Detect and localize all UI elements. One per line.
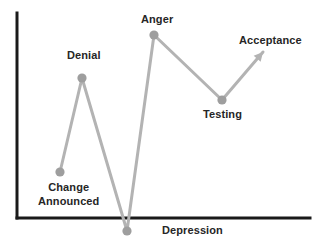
- data-point-marker: [149, 30, 158, 39]
- point-label-acceptance: Acceptance: [239, 34, 302, 47]
- data-point-marker: [217, 95, 226, 104]
- point-label-denial: Denial: [67, 49, 101, 62]
- label-line: Change: [38, 180, 99, 194]
- data-point-marker: [77, 73, 86, 82]
- label-line: Testing: [203, 108, 242, 121]
- label-line: Acceptance: [239, 34, 302, 47]
- change-curve-chart: ChangeAnnouncedDenialDepressionAngerTest…: [0, 0, 322, 251]
- label-line: Depression: [162, 224, 223, 237]
- label-line: Anger: [141, 13, 173, 26]
- label-line: Denial: [67, 49, 101, 62]
- point-label-depression: Depression: [162, 224, 223, 237]
- data-point-marker: [55, 167, 64, 176]
- point-label-testing: Testing: [203, 108, 242, 121]
- data-point-marker: [122, 226, 131, 235]
- point-label-anger: Anger: [141, 13, 173, 26]
- label-line: Announced: [38, 194, 99, 208]
- point-label-change-announced: ChangeAnnounced: [38, 180, 99, 208]
